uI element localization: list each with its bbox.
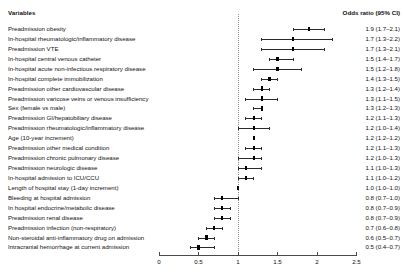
- table-row: Preadmission GI/hepatobiliary disease1.2…: [0, 113, 404, 123]
- x-axis-tick: [238, 252, 239, 255]
- column-header-odds-ratio: Odds ratio (95% CI): [343, 9, 400, 16]
- variable-label: In-hospital rheumatologic/inflammatory d…: [8, 34, 135, 44]
- variable-label: Preadmission rheumatologic/inflammatory …: [8, 123, 144, 133]
- x-axis-tick: [277, 252, 278, 255]
- table-row: Sex (female vs male)1.3 (1.2–1.3): [0, 103, 404, 113]
- table-row: Preadmission other medical condition1.2 …: [0, 143, 404, 153]
- table-row: In-hospital complete immobilization1.4 (…: [0, 74, 404, 84]
- table-row: Preadmission varicose veins or venous in…: [0, 94, 404, 104]
- variable-label: In-hospital central venous catheter: [8, 54, 101, 64]
- x-axis-tick-label: 2.5: [352, 258, 361, 265]
- x-axis-tick: [198, 252, 199, 255]
- forest-plot-figure: Variables Odds ratio (95% CI) Preadmissi…: [0, 0, 404, 274]
- x-axis-tick: [356, 252, 357, 255]
- table-row: In-hospital admission to ICU/CCU1.1 (1.0…: [0, 173, 404, 183]
- variable-label: Sex (female vs male): [8, 103, 65, 113]
- odds-ratio-value: 1.7 (1.3–2.2): [365, 34, 400, 44]
- odds-ratio-value: 1.5 (1.4–1.7): [365, 54, 400, 64]
- variable-label: In-hospital admission to ICU/CCU: [8, 173, 99, 183]
- table-row: Bleeding at hospital admission0.8 (0.7–1…: [0, 193, 404, 203]
- table-row: In-hospital rheumatologic/inflammatory d…: [0, 34, 404, 44]
- odds-ratio-value: 1.2 (1.0–1.4): [365, 123, 400, 133]
- table-row: Preadmission infection (non-respiratory)…: [0, 223, 404, 233]
- x-axis-tick: [317, 252, 318, 255]
- x-axis-tick-label: 0: [157, 258, 160, 265]
- x-axis-tick-label: 0.5: [194, 258, 203, 265]
- variable-label: Preadmission chronic pulmonary disease: [8, 153, 119, 163]
- odds-ratio-value: 1.7 (1.3–2.1): [365, 44, 400, 54]
- odds-ratio-value: 1.4 (1.3–1.5): [365, 74, 400, 84]
- table-row: In hospital endocrine/metabolic disease0…: [0, 203, 404, 213]
- x-axis-tick-label: 2: [315, 258, 318, 265]
- odds-ratio-value: 1.2 (1.2–1.2): [365, 133, 400, 143]
- variable-label: Non-steroidal anti-inflammatory drug on …: [8, 233, 144, 243]
- odds-ratio-value: 1.2 (1.1–1.3): [365, 143, 400, 153]
- variable-label: Preadmission neurologic disease: [8, 163, 97, 173]
- variable-label: Bleeding at hospital admission: [8, 193, 90, 203]
- table-row: Preadmission rheumatologic/inflammatory …: [0, 123, 404, 133]
- variable-label: Intracranial hemorrhage at current admis…: [8, 242, 129, 252]
- odds-ratio-value: 1.3 (1.2–1.4): [365, 84, 400, 94]
- odds-ratio-value: 1.1 (1.0–1.3): [365, 163, 400, 173]
- variable-label: Preadmission VTE: [8, 44, 58, 54]
- x-axis-tick: [159, 252, 160, 255]
- odds-ratio-value: 0.6 (0.5–0.7): [365, 233, 400, 243]
- odds-ratio-value: 1.3 (1.1–1.5): [365, 94, 400, 104]
- variable-label: Age (10-year increment): [8, 133, 74, 143]
- variable-label: Preadmission GI/hepatobiliary disease: [8, 113, 112, 123]
- table-row: Non-steroidal anti-inflammatory drug on …: [0, 233, 404, 243]
- x-axis-tick-label: 1: [236, 258, 239, 265]
- table-row: Preadmission VTE1.7 (1.3–2.1): [0, 44, 404, 54]
- variable-label: Preadmission other cardiovascular diseas…: [8, 84, 124, 94]
- variable-label: Preadmission other medical condition: [8, 143, 109, 153]
- table-row: Preadmission renal disease0.8 (0.7–0.9): [0, 213, 404, 223]
- x-axis-line: [159, 255, 357, 256]
- table-row: Length of hospital stay (1-day increment…: [0, 183, 404, 193]
- odds-ratio-value: 0.8 (0.7–1.0): [365, 193, 400, 203]
- table-row: Preadmission chronic pulmonary disease1.…: [0, 153, 404, 163]
- column-header-variables: Variables: [8, 9, 35, 16]
- variable-label: Preadmission varicose veins or venous in…: [8, 94, 148, 104]
- table-row: Age (10-year increment)1.2 (1.2–1.2): [0, 133, 404, 143]
- odds-ratio-value: 1.0 (1.0–1.0): [365, 183, 400, 193]
- odds-ratio-value: 1.5 (1.2–1.8): [365, 64, 400, 74]
- odds-ratio-value: 1.3 (1.2–1.3): [365, 103, 400, 113]
- odds-ratio-value: 1.1 (1.0–1.2): [365, 173, 400, 183]
- variable-label: In-hospital complete immobilization: [8, 74, 103, 84]
- table-row: Intracranial hemorrhage at current admis…: [0, 242, 404, 252]
- table-row: Preadmission neurologic disease1.1 (1.0–…: [0, 163, 404, 173]
- table-row: Preadmission other cardiovascular diseas…: [0, 84, 404, 94]
- odds-ratio-value: 1.2 (1.1–1.3): [365, 113, 400, 123]
- odds-ratio-value: 0.8 (0.7–0.9): [365, 203, 400, 213]
- odds-ratio-value: 0.5 (0.4–0.7): [365, 242, 400, 252]
- variable-label: In-hospital acute non-infectious respira…: [8, 64, 146, 74]
- table-row: In-hospital acute non-infectious respira…: [0, 64, 404, 74]
- variable-label: Preadmission infection (non-respiratory): [8, 223, 116, 233]
- table-row: Preadmission obesity1.9 (1.7–2.1): [0, 24, 404, 34]
- table-row: In-hospital central venous catheter1.5 (…: [0, 54, 404, 64]
- odds-ratio-value: 0.8 (0.7–0.9): [365, 213, 400, 223]
- odds-ratio-value: 1.2 (1.0–1.3): [365, 153, 400, 163]
- variable-label: Preadmission obesity: [8, 24, 66, 34]
- variable-label: In hospital endocrine/metabolic disease: [8, 203, 115, 213]
- variable-label: Length of hospital stay (1-day increment…: [8, 183, 118, 193]
- variable-label: Preadmission renal disease: [8, 213, 83, 223]
- x-axis-tick-label: 1.5: [273, 258, 282, 265]
- odds-ratio-value: 1.9 (1.7–2.1): [365, 24, 400, 34]
- odds-ratio-value: 0.7 (0.6–0.8): [365, 223, 400, 233]
